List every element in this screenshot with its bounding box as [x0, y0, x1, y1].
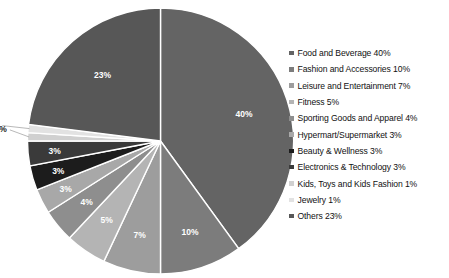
legend-item-label: Beauty & Wellness 3%: [298, 146, 383, 156]
legend-item[interactable]: Electronics & Technology 3%: [289, 159, 449, 175]
legend-item[interactable]: Fitness 5%: [289, 94, 449, 110]
legend-item-label: Electronics & Technology 3%: [298, 162, 406, 172]
legend-swatch-icon: [289, 198, 294, 203]
legend-item-label: Sporting Goods and Apparel 4%: [298, 113, 418, 123]
pie-slice-label: 4%: [81, 197, 94, 207]
legend-item[interactable]: Leisure and Entertainment 7%: [289, 78, 449, 94]
legend-item-label: Hypermart/Supermarket 3%: [298, 130, 402, 140]
legend-item-label: Food and Beverage 40%: [298, 48, 391, 58]
legend-swatch-icon: [289, 116, 294, 121]
legend-swatch-icon: [289, 132, 294, 137]
pie-slice-label: 40%: [235, 109, 252, 119]
legend-swatch-icon: [289, 51, 294, 56]
legend-item[interactable]: Sporting Goods and Apparel 4%: [289, 110, 449, 126]
legend-item-label: Jewelry 1%: [298, 195, 341, 205]
legend-item[interactable]: Kids, Toys and Kids Fashion 1%: [289, 175, 449, 191]
legend-swatch-icon: [289, 181, 294, 186]
legend-item-label: Fitness 5%: [298, 97, 340, 107]
legend-item[interactable]: Beauty & Wellness 3%: [289, 143, 449, 159]
chart-legend: Food and Beverage 40%Fashion and Accesso…: [289, 45, 449, 224]
legend-item-label: Fashion and Accessories 10%: [298, 64, 410, 74]
legend-item[interactable]: Jewelry 1%: [289, 192, 449, 208]
legend-item[interactable]: Hypermart/Supermarket 3%: [289, 126, 449, 142]
pie-slice-label: 23%: [94, 70, 111, 80]
legend-item[interactable]: Fashion and Accessories 10%: [289, 61, 449, 77]
pie-slice-label: 1%: [0, 124, 7, 134]
pie-slice-label: 10%: [182, 227, 199, 237]
legend-swatch-icon: [289, 214, 294, 219]
legend-swatch-icon: [289, 149, 294, 154]
pie-slices-group: [27, 8, 293, 274]
legend-item[interactable]: Others 23%: [289, 208, 449, 224]
legend-swatch-icon: [289, 100, 294, 105]
legend-swatch-icon: [289, 67, 294, 72]
legend-item-label: Leisure and Entertainment 7%: [298, 81, 411, 91]
label-leader-line: [10, 130, 29, 137]
legend-swatch-icon: [289, 165, 294, 170]
pie-slice-label: 7%: [133, 230, 146, 240]
legend-item-label: Kids, Toys and Kids Fashion 1%: [298, 179, 418, 189]
pie-slice-label: 3%: [60, 184, 73, 194]
pie-slice-label: 3%: [52, 166, 65, 176]
legend-item[interactable]: Food and Beverage 40%: [289, 45, 449, 61]
pie-slice-label: 5%: [101, 215, 114, 225]
pie-slice-label: 3%: [48, 146, 61, 156]
legend-swatch-icon: [289, 83, 294, 88]
legend-item-label: Others 23%: [298, 211, 342, 221]
